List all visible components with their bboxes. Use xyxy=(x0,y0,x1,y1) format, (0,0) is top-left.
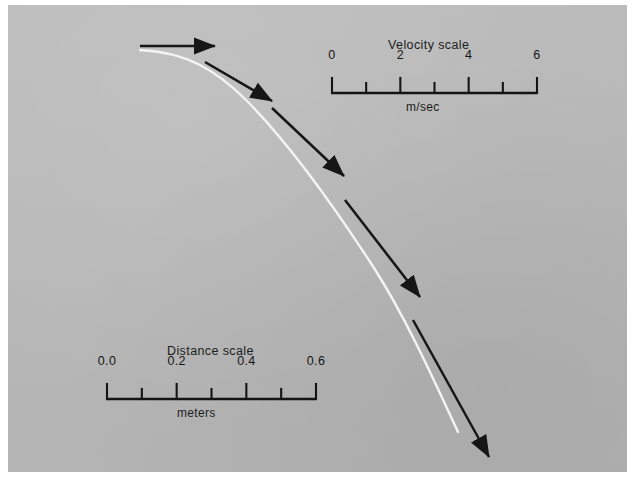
velocity-scale-unit: m/sec xyxy=(406,100,440,114)
tick-label: 0 xyxy=(328,48,335,62)
tick-label: 0.0 xyxy=(98,354,116,368)
tick-label: 6 xyxy=(533,48,540,62)
velocity-vector-5 xyxy=(413,320,489,457)
tick-label: 0.2 xyxy=(168,354,186,368)
tick-label: 2 xyxy=(397,48,404,62)
distance-scale-ruler xyxy=(105,372,325,408)
distance-scale-unit: meters xyxy=(177,406,215,420)
velocity-scale-ruler xyxy=(330,66,545,102)
tick-label: 4 xyxy=(465,48,472,62)
velocity-vector-2 xyxy=(205,62,272,101)
projectile-trajectory-figure: Velocity scale m/sec 0246 Distance scale… xyxy=(0,0,635,491)
tick-label: 0.6 xyxy=(307,354,325,368)
tick-label: 0.4 xyxy=(237,354,255,368)
